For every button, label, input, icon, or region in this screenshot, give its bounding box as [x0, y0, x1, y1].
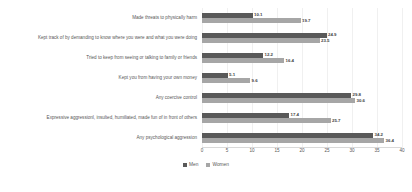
bar-value-label: 30.6: [357, 99, 366, 103]
bars-container: 5.19.6: [202, 68, 412, 88]
legend-item-men[interactable]: Men: [183, 162, 198, 167]
bar-line: 24.9: [202, 33, 412, 38]
category-label: Kept you from having your own money: [0, 75, 202, 81]
bar-group: 5.19.6: [202, 72, 412, 84]
bar-line: 5.1: [202, 73, 412, 78]
bar-line: 23.5: [202, 38, 412, 43]
chart-category-row: Made threats to physically harm10.119.7: [0, 8, 412, 28]
bar-men[interactable]: [202, 93, 351, 98]
legend-swatch-icon: [183, 163, 187, 167]
category-label: Expressive aggressionl, insulted, humili…: [0, 115, 202, 121]
chart-category-row: Expressive aggressionl, insulted, humili…: [0, 108, 412, 128]
bar-value-label: 5.1: [229, 73, 235, 77]
bar-line: 16.4: [202, 58, 412, 63]
legend-label: Men: [189, 162, 198, 167]
bar-line: 17.4: [202, 113, 412, 118]
chart-category-row: Any coercive control29.830.6: [0, 88, 412, 108]
bar-men[interactable]: [202, 13, 253, 18]
category-label: Kept track of by demanding to know where…: [0, 35, 202, 41]
bar-line: 19.7: [202, 18, 412, 23]
bars-container: 12.216.4: [202, 48, 412, 68]
category-rows: Made threats to physically harm10.119.7K…: [0, 8, 412, 148]
bar-value-label: 19.7: [302, 19, 311, 23]
bar-chart: Made threats to physically harm10.119.7K…: [0, 0, 412, 192]
plot-area: Made threats to physically harm10.119.7K…: [0, 8, 412, 148]
axis-tick-label: 35: [374, 148, 379, 154]
bar-group: 10.119.7: [202, 12, 412, 24]
axis-tick-label: 10: [249, 148, 254, 154]
chart-legend: MenWomen: [0, 162, 412, 167]
bar-value-label: 9.6: [252, 79, 258, 83]
bar-women[interactable]: [202, 98, 355, 103]
bar-line: 30.6: [202, 98, 412, 103]
bar-line: 25.7: [202, 118, 412, 123]
axis-tick-label: 20: [299, 148, 304, 154]
category-label: Made threats to physically harm: [0, 15, 202, 21]
bar-value-label: 25.7: [332, 119, 341, 123]
chart-category-row: Kept you from having your own money5.19.…: [0, 68, 412, 88]
bars-container: 10.119.7: [202, 8, 412, 28]
bar-line: 34.2: [202, 133, 412, 138]
bar-value-label: 29.8: [353, 93, 362, 97]
bar-women[interactable]: [202, 58, 284, 63]
bar-women[interactable]: [202, 18, 301, 23]
bar-men[interactable]: [202, 53, 263, 58]
bar-women[interactable]: [202, 118, 331, 123]
bar-value-label: 12.2: [265, 53, 274, 57]
axis-tick-label: 5: [226, 148, 229, 154]
bar-group: 24.923.5: [202, 32, 412, 44]
bar-value-label: 34.2: [375, 133, 384, 137]
bars-container: 29.830.6: [202, 88, 412, 108]
axis-tick-label: 30: [349, 148, 354, 154]
bar-value-label: 16.4: [286, 59, 295, 63]
x-axis: 0510152025303540: [202, 148, 402, 160]
bar-men[interactable]: [202, 133, 373, 138]
legend-swatch-icon: [206, 163, 210, 167]
bars-container: 34.236.4: [202, 128, 412, 148]
chart-category-row: Kept track of by demanding to know where…: [0, 28, 412, 48]
bar-men[interactable]: [202, 113, 289, 118]
bars-container: 17.425.7: [202, 108, 412, 128]
bar-line: 12.2: [202, 53, 412, 58]
bar-line: 10.1: [202, 13, 412, 18]
bar-women[interactable]: [202, 78, 250, 83]
chart-category-row: Tried to keep from seeing or talking to …: [0, 48, 412, 68]
bar-line: 29.8: [202, 93, 412, 98]
axis-tick-label: 40: [399, 148, 404, 154]
bar-group: 29.830.6: [202, 92, 412, 104]
bar-group: 12.216.4: [202, 52, 412, 64]
bar-men[interactable]: [202, 73, 228, 78]
category-label: Tried to keep from seeing or talking to …: [0, 55, 202, 61]
bar-women[interactable]: [202, 38, 320, 43]
bar-value-label: 24.9: [328, 33, 337, 37]
axis-tick-label: 15: [274, 148, 279, 154]
bar-group: 34.236.4: [202, 132, 412, 144]
bar-women[interactable]: [202, 138, 384, 143]
legend-label: Women: [212, 162, 228, 167]
bar-group: 17.425.7: [202, 112, 412, 124]
category-label: Any psychological aggression: [0, 135, 202, 141]
chart-category-row: Any psychological aggression34.236.4: [0, 128, 412, 148]
axis-tick-label: 25: [324, 148, 329, 154]
bar-value-label: 10.1: [254, 13, 263, 17]
category-label: Any coercive control: [0, 95, 202, 101]
bar-men[interactable]: [202, 33, 327, 38]
bar-value-label: 23.5: [321, 39, 330, 43]
bar-value-label: 36.4: [386, 139, 395, 143]
bar-line: 9.6: [202, 78, 412, 83]
legend-item-women[interactable]: Women: [206, 162, 228, 167]
bars-container: 24.923.5: [202, 28, 412, 48]
bar-value-label: 17.4: [291, 113, 300, 117]
bar-line: 36.4: [202, 138, 412, 143]
axis-tick-label: 0: [201, 148, 204, 154]
